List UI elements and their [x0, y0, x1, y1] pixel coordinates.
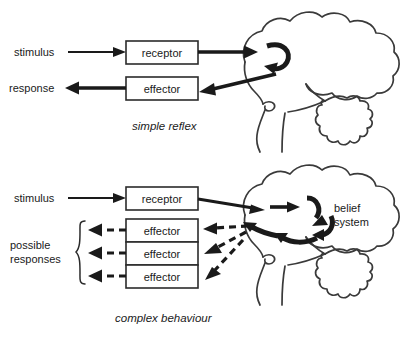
box-effector-1: effector [126, 219, 198, 242]
arrow-receptor-to-brain-top [198, 46, 258, 59]
responses-brace [76, 221, 85, 284]
label-response-top: response [9, 82, 54, 94]
caption-complex-behaviour: complex behaviour [115, 312, 213, 324]
arrow-brain-to-effector-top [199, 74, 276, 96]
box-receptor-bottom-label: receptor [142, 193, 183, 205]
box-effector-1-label: effector [144, 225, 181, 237]
arrow-effector-3-to-responses [88, 270, 126, 283]
box-effector-2: effector [126, 242, 198, 265]
arrow-brain-to-effector-3 [205, 240, 243, 280]
box-effector-top-label: effector [144, 83, 181, 95]
label-belief-system-line2: system [334, 216, 369, 228]
box-effector-2-label: effector [144, 248, 181, 260]
arrow-brain-chain-bottom [243, 198, 332, 243]
arrow-brain-uturn-top [264, 45, 288, 74]
panel-simple-reflex: stimulus receptor effector [9, 12, 399, 152]
arrow-stimulus-to-receptor-bottom [68, 193, 126, 203]
arrow-receptor-to-brain-bottom [198, 199, 265, 214]
arrow-effector-2-to-responses [88, 247, 126, 260]
figure-canvas: stimulus receptor effector [0, 0, 403, 341]
brain-outline-top [244, 12, 400, 152]
box-effector-top: effector [126, 77, 198, 100]
label-possible-responses-line1: possible [10, 239, 50, 251]
label-stimulus-bottom: stimulus [14, 192, 55, 204]
label-stimulus-top: stimulus [14, 46, 55, 58]
box-effector-3: effector [126, 265, 198, 288]
arrow-effector-to-response-top [65, 82, 126, 95]
arrow-effector-1-to-responses [88, 224, 126, 237]
label-belief-system-line1: belief [334, 202, 361, 214]
arrow-stimulus-to-receptor-top [68, 47, 126, 57]
caption-simple-reflex: simple reflex [132, 120, 198, 132]
box-receptor-bottom: receptor [126, 187, 198, 210]
box-effector-3-label: effector [144, 271, 181, 283]
panel-complex-behaviour: stimulus receptor [10, 165, 399, 324]
box-receptor-top: receptor [126, 41, 198, 64]
box-receptor-top-label: receptor [142, 47, 183, 59]
arrow-brain-to-effector-1 [203, 223, 248, 235]
label-possible-responses-line2: responses [10, 253, 61, 265]
